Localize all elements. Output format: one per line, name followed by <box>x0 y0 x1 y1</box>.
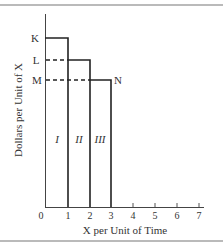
label-K: K <box>31 32 39 44</box>
tick-7: 7 <box>197 210 202 221</box>
label-L: L <box>33 54 40 66</box>
y-axis-title: Dollars per Unit of X <box>12 63 24 157</box>
tick-5: 5 <box>153 210 158 221</box>
tick-3: 3 <box>109 210 114 221</box>
region-II: II <box>74 133 84 145</box>
x-tick-labels: 0 1 2 3 4 5 6 7 <box>39 210 202 221</box>
tick-2: 2 <box>88 210 93 221</box>
tick-6: 6 <box>175 210 180 221</box>
label-M: M <box>32 74 42 86</box>
label-N: N <box>114 74 122 86</box>
x-ticks <box>133 203 199 207</box>
tick-4: 4 <box>131 210 136 221</box>
region-III: III <box>94 133 107 145</box>
x-axis-title: X per Unit of Time <box>83 224 167 236</box>
bar-K <box>45 38 68 207</box>
region-I: I <box>54 133 60 145</box>
step-demand-diagram: K L M N I II III 0 1 2 3 4 5 6 7 X per U… <box>0 0 223 247</box>
tick-1: 1 <box>66 210 71 221</box>
tick-0: 0 <box>39 210 44 221</box>
step-bars <box>45 38 111 207</box>
